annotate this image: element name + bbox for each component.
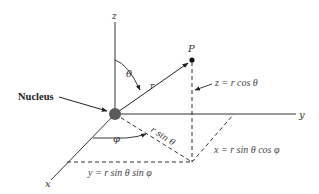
spherical-coordinates-diagram: z y x P θ r φ r sin θ Nucleus z = r cos … xyxy=(0,0,319,194)
x-axis-label: x xyxy=(45,178,51,189)
point-p-label: P xyxy=(187,43,195,54)
r-label: r xyxy=(150,81,155,91)
nucleus-pointer xyxy=(59,97,107,111)
theta-label: θ xyxy=(126,68,132,79)
phi-label: φ xyxy=(113,133,120,144)
z-equation: z = r cos θ xyxy=(214,77,258,88)
z-eq-pointer xyxy=(195,84,212,90)
z-axis-label: z xyxy=(111,11,117,21)
y-axis-label: y xyxy=(298,109,305,120)
x-equation: x = r sin θ cos φ xyxy=(213,144,280,155)
nucleus-sphere xyxy=(109,108,121,120)
point-p-dot xyxy=(189,57,194,62)
nucleus-label: Nucleus xyxy=(18,91,54,102)
y-equation: y = r sin θ sin φ xyxy=(87,167,152,178)
